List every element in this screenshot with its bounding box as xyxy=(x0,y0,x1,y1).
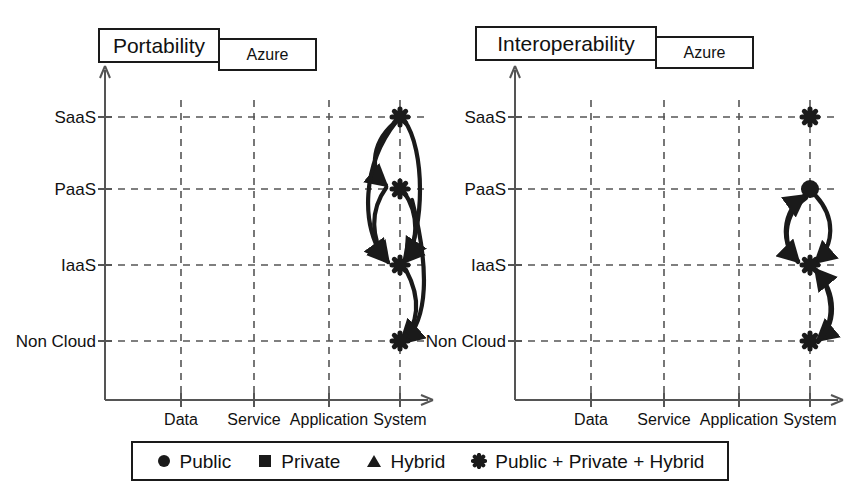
right-chart-axes xyxy=(508,66,843,407)
chart-subtitle-portability: Azure xyxy=(218,38,317,71)
y-tick-iaas-right: IaaS xyxy=(408,257,506,274)
legend-label-public-private-hybrid: Public + Private + Hybrid xyxy=(495,452,704,471)
left-chart-markers xyxy=(392,109,408,349)
y-tick-saas-left: SaaS xyxy=(0,109,96,126)
left-chart-axes xyxy=(98,66,433,407)
x-tick-service-right: Service xyxy=(637,412,690,428)
right-chart-connections xyxy=(786,196,832,342)
circle-marker-icon xyxy=(156,453,172,469)
figure-root: Portability Azure SaaS PaaS IaaS Non Clo… xyxy=(0,0,861,487)
legend: Public Private Hybrid Public + Private +… xyxy=(131,441,729,481)
y-tick-noncloud-left: Non Cloud xyxy=(0,333,96,350)
legend-label-hybrid: Hybrid xyxy=(390,452,445,471)
left-chart-gridlines xyxy=(105,100,424,396)
chart-subtitle-interoperability: Azure xyxy=(655,36,754,69)
y-tick-paas-right: PaaS xyxy=(408,181,506,198)
x-tick-application-left: Application xyxy=(290,412,368,428)
legend-item-private: Private xyxy=(257,452,340,471)
y-tick-noncloud-right: Non Cloud xyxy=(408,333,506,350)
legend-item-hybrid: Hybrid xyxy=(366,452,445,471)
chart-title-portability: Portability xyxy=(98,28,220,63)
x-tick-system-right: System xyxy=(783,412,836,428)
y-tick-iaas-left: IaaS xyxy=(0,257,96,274)
right-chart-gridlines xyxy=(515,100,834,396)
legend-item-public: Public xyxy=(156,452,232,471)
asterisk-marker-icon xyxy=(471,453,487,469)
x-tick-data-right: Data xyxy=(574,412,608,428)
triangle-marker-icon xyxy=(366,453,382,469)
left-chart-connections xyxy=(368,120,424,342)
square-marker-icon xyxy=(257,453,273,469)
legend-item-public-private-hybrid: Public + Private + Hybrid xyxy=(471,452,704,471)
x-tick-data-left: Data xyxy=(164,412,198,428)
x-tick-application-right: Application xyxy=(700,412,778,428)
y-tick-saas-right: SaaS xyxy=(408,109,506,126)
chart-title-interoperability: Interoperability xyxy=(475,26,657,61)
x-tick-service-left: Service xyxy=(227,412,280,428)
legend-label-public: Public xyxy=(180,452,232,471)
y-tick-paas-left: PaaS xyxy=(0,181,96,198)
legend-label-private: Private xyxy=(281,452,340,471)
right-chart-markers xyxy=(801,109,819,349)
x-tick-system-left: System xyxy=(373,412,426,428)
